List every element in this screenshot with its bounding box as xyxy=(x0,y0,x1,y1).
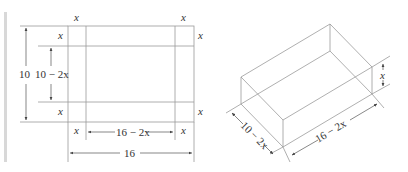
box-net-diagram: x x x x x x x x 10 10 − 2x 16 − 2x 16 xyxy=(0,0,408,172)
box-length-arrow-right xyxy=(350,104,377,120)
label-box-depth: 10 − 2x xyxy=(239,119,272,152)
label-box-height: x xyxy=(379,69,385,81)
label-inner-width: 16 − 2x xyxy=(116,126,150,138)
label-x-right-bottom: x xyxy=(197,105,203,117)
label-x-top-right: x xyxy=(180,11,186,23)
label-x-top-left: x xyxy=(73,11,79,23)
label-x-bottom-left: x xyxy=(73,124,79,136)
label-x-left-top: x xyxy=(57,29,63,41)
label-x-left-bottom: x xyxy=(57,105,63,117)
label-inner-height: 10 − 2x xyxy=(35,68,69,80)
label-width: 16 xyxy=(124,147,136,159)
label-x-right-top: x xyxy=(197,29,203,41)
label-height: 10 xyxy=(19,68,31,80)
label-box-length: 16 − 2x xyxy=(313,117,348,145)
box-length-arrow-left xyxy=(292,140,318,155)
box-depth-arrow-top xyxy=(232,113,243,124)
label-x-bottom-right: x xyxy=(180,124,186,136)
open-box xyxy=(226,24,390,162)
flat-sheet xyxy=(20,26,194,162)
